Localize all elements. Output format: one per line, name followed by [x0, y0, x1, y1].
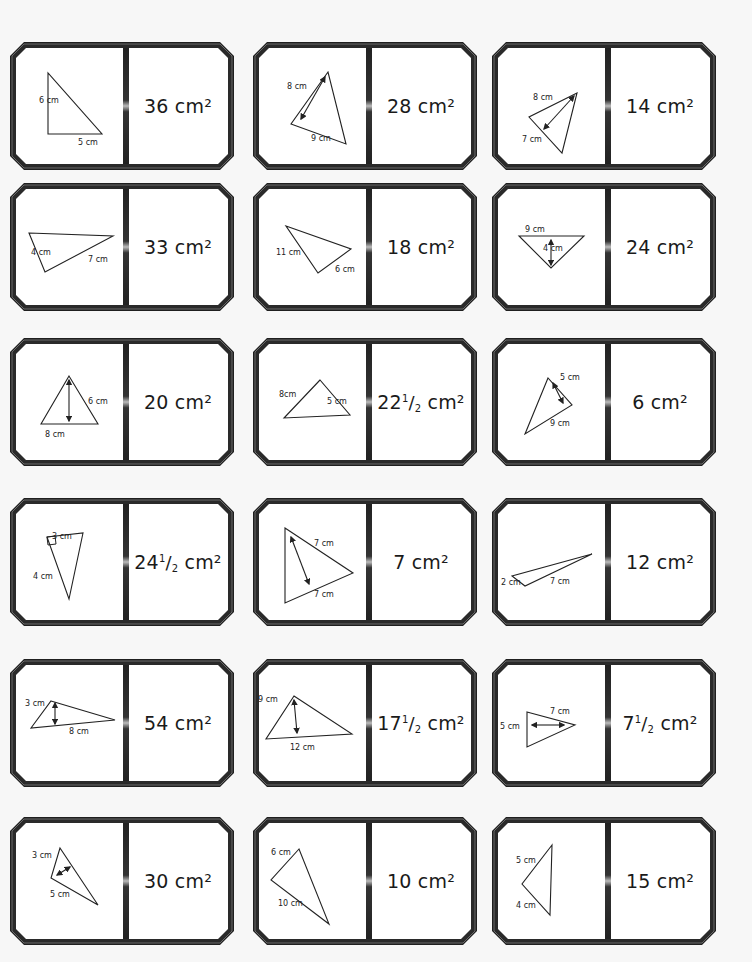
dimension-label: 8 cm [287, 82, 307, 91]
answer-unit: cm² [175, 870, 212, 892]
domino-card: 9 cm12 cm 171/2 cm² [253, 659, 477, 787]
dimension-label: 5 cm [78, 138, 98, 147]
domino-answer-half: 171/2 cm² [369, 659, 477, 787]
dimension-label: 4 cm [516, 901, 536, 910]
dimension-label: 7 cm [314, 539, 334, 548]
answer-unit: cm² [428, 712, 465, 734]
answer-fraction: 1/2 [402, 392, 421, 413]
answer-unit: cm² [657, 870, 694, 892]
domino-question-half: 6 cm5 cm [10, 42, 123, 170]
domino-question-half: 3 cm5 cm [10, 817, 123, 945]
domino-answer-half: 18 cm² [369, 183, 477, 311]
area-answer: 33 cm² [144, 236, 212, 259]
domino-question-half: 3 cm8 cm [10, 659, 123, 787]
domino-answer-half: 10 cm² [369, 817, 477, 945]
triangle-shape [271, 849, 329, 924]
dimension-label: 2 cm [501, 578, 521, 587]
domino-answer-half: 6 cm² [608, 338, 716, 466]
domino-card: 5 cm4 cm 15 cm² [492, 817, 716, 945]
dimension-label: 3 cm [25, 699, 45, 708]
domino-answer-half: 15 cm² [608, 817, 716, 945]
domino-card: 3 cm5 cm 30 cm² [10, 817, 234, 945]
answer-whole: 30 [144, 870, 169, 892]
area-answer: 28 cm² [387, 95, 455, 118]
dimension-label: 7 cm [522, 135, 542, 144]
answer-unit: cm² [657, 95, 694, 117]
domino-answer-half: 54 cm² [126, 659, 234, 787]
triangle-figure: 5 cm4 cm [492, 817, 605, 945]
domino-card: 8 cm7 cm 14 cm² [492, 42, 716, 170]
domino-question-half: 11 cm6 cm [253, 183, 366, 311]
dimension-label: 8 cm [45, 430, 65, 439]
area-answer: 15 cm² [626, 870, 694, 893]
answer-whole: 24 [626, 236, 651, 258]
domino-card: 9 cm4 cm 24 cm² [492, 183, 716, 311]
domino-card: 6 cm5 cm 36 cm² [10, 42, 234, 170]
area-answer: 14 cm² [626, 95, 694, 118]
answer-unit: cm² [175, 391, 212, 413]
dimension-label: 5 cm [50, 890, 70, 899]
area-answer: 12 cm² [626, 551, 694, 574]
domino-question-half: 5 cm4 cm [492, 817, 605, 945]
triangle-figure: 9 cm12 cm [253, 659, 366, 787]
dimension-label: 7 cm [550, 707, 570, 716]
answer-whole: 28 [387, 95, 412, 117]
dimension-label: 8 cm [533, 93, 553, 102]
area-answer: 10 cm² [387, 870, 455, 893]
answer-whole: 6 [632, 391, 644, 413]
domino-question-half: 9 cm12 cm [253, 659, 366, 787]
answer-whole: 14 [626, 95, 651, 117]
triangle-figure: 7 cm7 cm [253, 498, 366, 626]
answer-unit: cm² [185, 551, 222, 573]
domino-answer-half: 241/2 cm² [126, 498, 234, 626]
domino-question-half: 6 cm10 cm [253, 817, 366, 945]
answer-unit: cm² [657, 551, 694, 573]
domino-answer-half: 30 cm² [126, 817, 234, 945]
dimension-label: 5 cm [500, 722, 520, 731]
area-answer: 30 cm² [144, 870, 212, 893]
area-answer: 20 cm² [144, 391, 212, 414]
answer-unit: cm² [418, 95, 455, 117]
domino-card: 3 cm8 cm 54 cm² [10, 659, 234, 787]
domino-question-half: 7 cm5 cm [492, 659, 605, 787]
answer-whole: 7 [393, 551, 405, 573]
dimension-label: 9 cm [311, 134, 331, 143]
domino-question-half: 3 cm4 cm [10, 498, 123, 626]
domino-question-half: 6 cm8 cm [10, 338, 123, 466]
triangle-figure: 11 cm6 cm [253, 183, 366, 311]
area-answer: 6 cm² [632, 391, 688, 414]
triangle-figure: 5 cm9 cm [492, 338, 605, 466]
answer-unit: cm² [175, 95, 212, 117]
dimension-label: 7 cm [88, 255, 108, 264]
area-answer: 7 cm² [393, 551, 449, 574]
answer-fraction: 1/2 [159, 552, 178, 573]
triangle-figure: 8 cm9 cm [253, 42, 366, 170]
area-answer: 36 cm² [144, 95, 212, 118]
dimension-label: 12 cm [290, 743, 315, 752]
dimension-label: 11 cm [276, 248, 301, 257]
domino-answer-half: 28 cm² [369, 42, 477, 170]
dimension-label: 6 cm [271, 848, 291, 857]
answer-unit: cm² [175, 236, 212, 258]
domino-card: 6 cm10 cm 10 cm² [253, 817, 477, 945]
dimension-label: 6 cm [39, 96, 59, 105]
domino-question-half: 4 cm7 cm [10, 183, 123, 311]
domino-question-half: 7 cm7 cm [253, 498, 366, 626]
answer-fraction: 1/2 [402, 713, 421, 734]
domino-card: 2 cm7 cm 12 cm² [492, 498, 716, 626]
domino-question-half: 5 cm9 cm [492, 338, 605, 466]
domino-card: 4 cm7 cm 33 cm² [10, 183, 234, 311]
domino-answer-half: 71/2 cm² [608, 659, 716, 787]
triangle-figure: 3 cm5 cm [10, 817, 123, 945]
triangle-figure: 3 cm8 cm [10, 659, 123, 787]
domino-card: 7 cm7 cm 7 cm² [253, 498, 477, 626]
answer-whole: 22 [377, 391, 402, 413]
answer-fraction: 1/2 [635, 713, 654, 734]
dimension-label: 5 cm [327, 397, 347, 406]
domino-question-half: 8 cm9 cm [253, 42, 366, 170]
answer-unit: cm² [428, 391, 465, 413]
triangle-figure: 2 cm7 cm [492, 498, 605, 626]
answer-whole: 18 [387, 236, 412, 258]
triangle-figure: 8cm5 cm [253, 338, 366, 466]
dimension-label: 9 cm [258, 695, 278, 704]
